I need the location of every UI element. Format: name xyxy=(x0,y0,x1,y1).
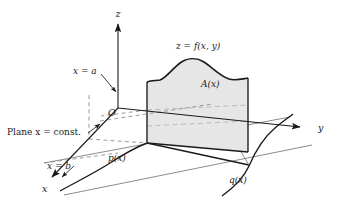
leader-x-equals-a xyxy=(101,74,116,92)
dashed-plane-trace-left xyxy=(89,139,147,143)
cross-section-slab xyxy=(147,59,248,152)
plane-callout-label: Plane x = const. xyxy=(7,127,81,137)
curve-q-label: q(x) xyxy=(229,175,247,185)
origin-label: O xyxy=(108,107,116,118)
z-axis-label: z xyxy=(114,8,121,19)
area-function-label: A(x) xyxy=(200,79,220,89)
figure-canvas: z y x O z = f(x, y) A(x) Plane x = const… xyxy=(0,0,338,203)
cross-section-area-fill xyxy=(147,59,248,152)
surface-equation-label: z = f(x, y) xyxy=(175,41,221,51)
limit-x-equals-b-label: x = b xyxy=(47,161,71,171)
x-axis-label: x xyxy=(42,183,48,194)
cross-section-diagram: z y x O z = f(x, y) A(x) Plane x = const… xyxy=(0,0,338,203)
y-axis-label: y xyxy=(317,122,324,133)
curve-p-label: p(x) xyxy=(108,153,126,163)
limit-x-equals-a-label: x = a xyxy=(73,66,97,76)
